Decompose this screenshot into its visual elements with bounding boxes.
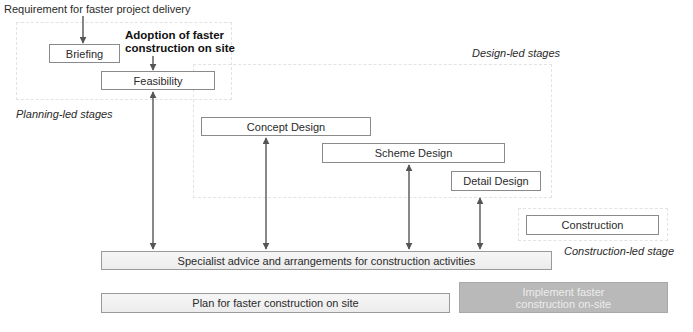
arrows-layer [0,0,693,332]
